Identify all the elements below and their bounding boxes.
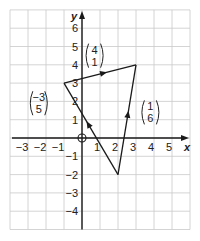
y-tick-label: −3	[65, 187, 78, 199]
left-paren	[142, 100, 145, 124]
arrowhead-icon	[124, 111, 130, 118]
x-tick-label: 4	[148, 141, 154, 153]
vector-labels: −354116	[30, 44, 159, 125]
x-axis-label: x	[183, 141, 191, 153]
y-tick-label: −1	[65, 150, 78, 162]
y-tick-label: 4	[72, 59, 78, 71]
x-tick-label: 5	[166, 141, 172, 153]
y-tick-label: 3	[72, 77, 78, 89]
vector-c-to-a-label: −35	[30, 91, 47, 115]
x-tick-label: 2	[112, 141, 118, 153]
vector-a-to-b-label: 41	[86, 44, 103, 68]
x-tick-label: −1	[52, 141, 65, 153]
right-paren	[156, 100, 159, 124]
left-paren	[86, 44, 89, 68]
y-tick-label: 5	[72, 41, 78, 53]
vector-component-top: 4	[92, 44, 98, 56]
vector-c-to-b-label: 16	[142, 100, 159, 124]
y-tick-label: −4	[65, 205, 78, 217]
y-axis-arrow-icon	[79, 11, 85, 19]
vector-component-top: −3	[33, 91, 46, 103]
y-tick-label: 6	[72, 22, 78, 34]
right-paren	[101, 44, 104, 68]
grid	[10, 10, 190, 230]
coordinate-grid-diagram: xy −3−2−112345−4−3−2−1123456 −354116	[0, 0, 200, 241]
vector-component-bottom: 5	[36, 103, 42, 115]
x-tick-label: 3	[130, 141, 136, 153]
y-tick-label: −2	[65, 169, 78, 181]
x-tick-label: −2	[34, 141, 47, 153]
vector-component-bottom: 6	[147, 112, 153, 124]
y-tick-label: 1	[72, 114, 78, 126]
vector-component-top: 1	[147, 100, 153, 112]
vector-component-bottom: 1	[92, 56, 98, 68]
y-axis-label: y	[70, 10, 78, 22]
x-tick-label: −3	[16, 141, 29, 153]
